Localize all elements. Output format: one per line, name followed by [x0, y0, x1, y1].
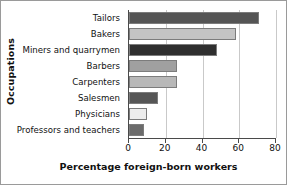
y-axis-tick-label: Carpenters: [17, 74, 124, 90]
y-axis-tick-labels: TailorsBakersMiners and quarrymenBarbers…: [17, 10, 124, 138]
x-axis-tick-label: 0: [125, 143, 131, 153]
bar: [129, 108, 147, 120]
bar: [129, 12, 259, 24]
bar: [129, 92, 158, 104]
y-axis-tick-label: Tailors: [17, 10, 124, 26]
x-axis-tick-labels: 020406080: [128, 143, 276, 155]
bar-slot: [129, 58, 276, 74]
grid-line: [276, 10, 277, 138]
bar-slot: [129, 26, 276, 42]
bar-slot: [129, 42, 276, 58]
y-axis-tick-label: Salesmen: [17, 90, 124, 106]
bar-series: [129, 10, 276, 138]
bar: [129, 60, 177, 72]
x-axis-title: Percentage foreign-born workers: [17, 161, 280, 172]
y-axis-tick-label: Miners and quarrymen: [17, 42, 124, 58]
bar: [129, 44, 217, 56]
bar-slot: [129, 90, 276, 106]
x-axis-tick-label: 20: [159, 143, 170, 153]
bar-chart-figure: Occupations TailorsBakersMiners and quar…: [0, 0, 287, 185]
plot-area: [128, 10, 276, 139]
bar-slot: [129, 10, 276, 26]
y-axis-tick-label: Barbers: [17, 58, 124, 74]
x-axis-tick-label: 40: [196, 143, 207, 153]
y-axis-tick-label: Bakers: [17, 26, 124, 42]
bar: [129, 28, 236, 40]
y-axis-title-text: Occupations: [6, 37, 17, 104]
y-axis-tick-label: Physicians: [17, 106, 124, 122]
bar-slot: [129, 122, 276, 138]
y-axis-tick-label: Professors and teachers: [17, 122, 124, 138]
x-axis-tick-label: 80: [269, 143, 280, 153]
x-axis-tick-label: 60: [233, 143, 244, 153]
bar: [129, 124, 144, 136]
bar-slot: [129, 74, 276, 90]
bar-slot: [129, 106, 276, 122]
bar: [129, 76, 177, 88]
